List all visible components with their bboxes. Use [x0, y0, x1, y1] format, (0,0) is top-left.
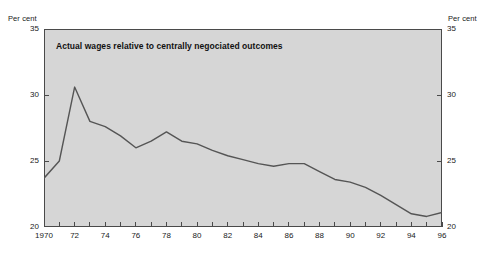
y-tick-label: 35: [21, 24, 39, 33]
x-tick-mark: [89, 222, 90, 227]
x-tick-label: 72: [70, 231, 79, 240]
x-tick-mark: [243, 222, 244, 227]
x-tick-label: 76: [131, 231, 140, 240]
x-tick-label: 80: [193, 231, 202, 240]
x-tick-mark: [135, 222, 136, 227]
x-tick-mark: [273, 222, 274, 227]
x-tick-label: 92: [376, 231, 385, 240]
x-tick-mark: [44, 222, 45, 227]
chart-figure: Per cent Per cent Actual wages relative …: [0, 0, 486, 254]
y-axis-unit-left: Per cent: [8, 14, 37, 23]
x-tick-mark: [227, 222, 228, 227]
x-tick-mark: [380, 222, 381, 227]
x-tick-label: 84: [254, 231, 263, 240]
y-tick-mark: [437, 95, 442, 96]
y-tick-label: 20: [21, 222, 39, 231]
x-tick-mark: [74, 222, 75, 227]
x-tick-mark: [105, 222, 106, 227]
x-tick-label: 82: [223, 231, 232, 240]
x-tick-mark: [166, 222, 167, 227]
y-axis-unit-right: Per cent: [448, 14, 477, 23]
y-tick-label: 25: [21, 156, 39, 165]
x-tick-mark: [426, 222, 427, 227]
y-tick-label: 35: [447, 24, 465, 33]
x-tick-label: 74: [101, 231, 110, 240]
x-tick-mark: [334, 222, 335, 227]
x-tick-label: 86: [284, 231, 293, 240]
x-tick-mark: [212, 222, 213, 227]
x-tick-mark: [304, 222, 305, 227]
x-tick-mark: [120, 222, 121, 227]
series-polyline: [44, 87, 442, 216]
x-tick-mark: [442, 222, 443, 227]
x-tick-mark: [411, 222, 412, 227]
y-tick-mark: [44, 95, 49, 96]
y-tick-label: 20: [447, 222, 465, 231]
y-tick-mark: [437, 161, 442, 162]
x-tick-label: 1970: [35, 231, 53, 240]
x-tick-mark: [350, 222, 351, 227]
x-tick-mark: [197, 222, 198, 227]
series-line-chart: [44, 29, 442, 227]
x-tick-label: 78: [162, 231, 171, 240]
x-tick-label: 94: [407, 231, 416, 240]
x-tick-mark: [181, 222, 182, 227]
x-tick-label: 90: [346, 231, 355, 240]
x-tick-label: 96: [438, 231, 447, 240]
y-tick-mark: [44, 161, 49, 162]
y-tick-label: 30: [447, 90, 465, 99]
x-tick-mark: [258, 222, 259, 227]
x-tick-mark: [151, 222, 152, 227]
x-tick-mark: [365, 222, 366, 227]
x-tick-mark: [288, 222, 289, 227]
y-tick-label: 25: [447, 156, 465, 165]
x-tick-mark: [319, 222, 320, 227]
x-tick-label: 88: [315, 231, 324, 240]
y-tick-label: 30: [21, 90, 39, 99]
x-tick-mark: [59, 222, 60, 227]
x-tick-mark: [396, 222, 397, 227]
